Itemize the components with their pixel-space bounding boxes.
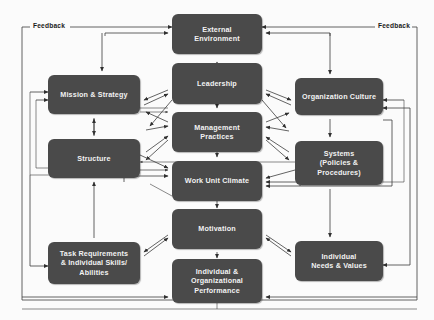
node-label: Organization Culture xyxy=(302,92,376,102)
node-label: Work Unit Climate xyxy=(185,176,249,186)
node-leadership[interactable]: Leadership xyxy=(172,63,262,104)
feedback-label-right: Feedback xyxy=(376,22,412,29)
node-motivation[interactable]: Motivation xyxy=(172,209,262,249)
node-task-requirements[interactable]: Task Requirements & Individual Skills/ A… xyxy=(48,242,140,284)
node-external-environment[interactable]: External Environment xyxy=(172,14,262,54)
node-structure[interactable]: Structure xyxy=(48,139,140,178)
node-label: Individual Needs & Values xyxy=(311,252,367,271)
node-label: Management Practices xyxy=(194,123,239,142)
burke-litwin-diagram: External Environment Leadership Mission … xyxy=(0,0,434,320)
node-label: Task Requirements & Individual Skills/ A… xyxy=(60,249,128,278)
node-label: Mission & Strategy xyxy=(60,90,127,100)
node-label: Systems (Policies & Procedures) xyxy=(317,149,361,178)
node-label: Motivation xyxy=(198,224,235,234)
node-systems[interactable]: Systems (Policies & Procedures) xyxy=(295,141,383,185)
node-individual-needs[interactable]: Individual Needs & Values xyxy=(295,241,383,281)
feedback-label-left: Feedback xyxy=(31,22,67,29)
node-management-practices[interactable]: Management Practices xyxy=(172,112,262,152)
node-label: Individual & Organizational Performance xyxy=(191,267,243,296)
node-label: Structure xyxy=(77,154,110,164)
node-organization-culture[interactable]: Organization Culture xyxy=(295,78,383,115)
node-work-unit-climate[interactable]: Work Unit Climate xyxy=(172,161,262,201)
node-label: Leadership xyxy=(197,79,237,89)
node-performance[interactable]: Individual & Organizational Performance xyxy=(172,259,262,303)
node-label: External Environment xyxy=(194,25,240,44)
node-mission-strategy[interactable]: Mission & Strategy xyxy=(48,75,140,114)
